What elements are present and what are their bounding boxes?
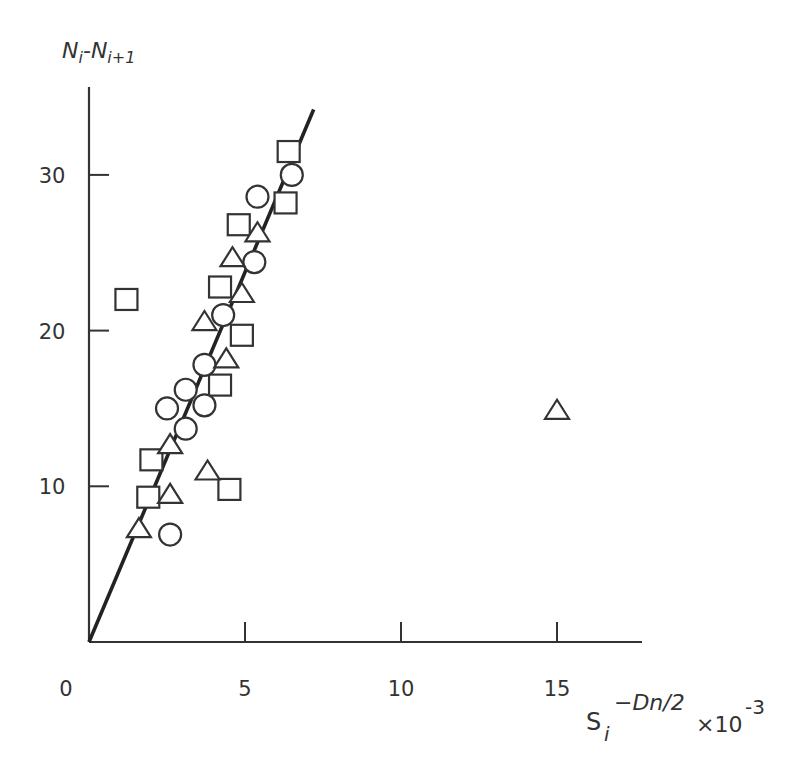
circle-marker xyxy=(281,164,303,186)
circle-marker xyxy=(243,251,265,273)
circle-marker xyxy=(246,186,268,208)
square-marker xyxy=(228,214,250,235)
axes xyxy=(89,87,642,642)
triangle-marker xyxy=(545,400,569,419)
x-label-exponent: -3 xyxy=(745,695,765,719)
circle-marker xyxy=(175,379,197,401)
square-marker xyxy=(218,479,240,500)
circle-marker xyxy=(193,354,215,376)
triangle-marker xyxy=(158,484,182,503)
scatter-chart: 051015102030 Ni-Ni+1 S i −Dn/2 ×10 -3 xyxy=(0,0,810,771)
x-axis-label: S i −Dn/2 ×10 -3 xyxy=(586,690,765,746)
triangle-marker xyxy=(214,348,238,367)
triangle-marker xyxy=(221,247,245,266)
y-tick-label: 20 xyxy=(39,320,66,344)
x-tick-label: 5 xyxy=(238,677,251,701)
triangle-marker xyxy=(196,461,220,480)
x-label-subscript: i xyxy=(604,722,610,746)
square-marker xyxy=(209,277,231,298)
triangle-marker xyxy=(230,283,254,302)
data-markers xyxy=(115,141,569,546)
x-label-base: S xyxy=(586,708,601,736)
circle-marker xyxy=(159,524,181,546)
square-marker xyxy=(231,325,253,346)
y-tick-label: 10 xyxy=(39,475,66,499)
square-marker xyxy=(209,375,231,396)
y-tick-label: 30 xyxy=(39,164,66,188)
x-label-superscript: −Dn/2 xyxy=(614,690,685,715)
square-marker xyxy=(137,487,159,508)
x-tick-label: 10 xyxy=(388,677,415,701)
x-tick-label: 0 xyxy=(59,677,72,701)
circle-marker xyxy=(156,397,178,419)
triangle-marker xyxy=(127,518,151,537)
square-marker xyxy=(115,289,137,310)
x-tick-label: 15 xyxy=(544,677,571,701)
square-marker xyxy=(275,192,297,213)
square-marker xyxy=(278,141,300,162)
x-label-multiplier: ×10 xyxy=(696,712,742,737)
y-axis-label: Ni-Ni+1 xyxy=(62,38,135,67)
circle-marker xyxy=(175,418,197,440)
tick-labels: 051015102030 xyxy=(39,164,571,701)
circle-marker xyxy=(212,304,234,326)
circle-marker xyxy=(193,394,215,416)
